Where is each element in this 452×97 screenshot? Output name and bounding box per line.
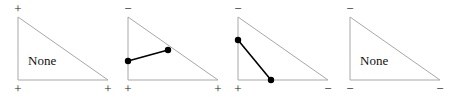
sign-bottom-left: + — [121, 82, 135, 95]
triangle-panel: − + + — [110, 0, 220, 97]
triangle-outline — [350, 17, 440, 80]
sign-top-left: + — [11, 2, 25, 15]
vertex-dot — [125, 58, 131, 64]
sign-top-left: − — [343, 2, 357, 15]
sign-top-left: − — [121, 2, 135, 15]
vertex-dot — [165, 47, 171, 53]
sign-bottom-left: + — [231, 82, 245, 95]
sign-bottom-right: − — [433, 82, 447, 95]
vertex-dot — [268, 77, 274, 83]
connector-segment — [238, 40, 271, 80]
signed-triangle-figure: + + + None − + + − — [0, 0, 452, 97]
triangle-panel: − − − None — [332, 0, 442, 97]
connector-segment — [128, 50, 168, 61]
sign-bottom-left: − — [343, 82, 357, 95]
vertex-dot — [235, 37, 241, 43]
triangle-outline — [18, 17, 108, 80]
sign-bottom-left: + — [11, 82, 25, 95]
sign-top-left: − — [231, 2, 245, 15]
none-label: None — [28, 54, 56, 68]
triangle-panel: + + + None — [0, 0, 110, 97]
triangle-outline — [238, 17, 328, 80]
segment-group — [238, 40, 271, 80]
triangle-outline — [128, 17, 218, 80]
segment-group — [128, 50, 168, 61]
triangle-panel: − + − — [220, 0, 330, 97]
none-label: None — [360, 54, 388, 68]
